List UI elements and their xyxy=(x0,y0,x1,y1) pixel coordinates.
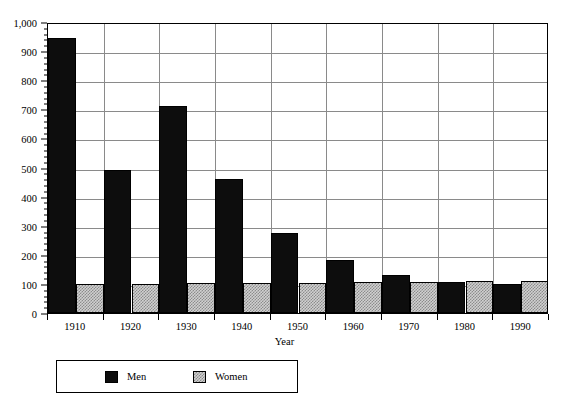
x-tick-mark xyxy=(158,314,159,320)
legend-swatch-women-icon xyxy=(193,371,206,383)
bars-layer xyxy=(48,24,547,313)
x-tick-mark xyxy=(437,314,438,320)
x-tick-label: 1970 xyxy=(398,321,419,332)
bar-men-1950 xyxy=(271,233,299,313)
y-tick-label: 800 xyxy=(21,76,37,87)
bar-men-1930 xyxy=(159,106,187,313)
bar-men-1960 xyxy=(326,260,354,313)
x-tick-label: 1930 xyxy=(176,321,197,332)
bar-women-1980 xyxy=(466,281,494,313)
bar-women-1950 xyxy=(299,283,327,313)
x-tick-mark xyxy=(47,314,48,320)
y-tick-label: 900 xyxy=(21,47,37,58)
x-tick-label: 1960 xyxy=(343,321,364,332)
x-tick-label: 1990 xyxy=(510,321,531,332)
y-tick-label: 400 xyxy=(21,192,37,203)
bar-men-1940 xyxy=(215,179,243,313)
x-tick-label: 1980 xyxy=(454,321,475,332)
legend-item-women[interactable]: Women xyxy=(193,371,247,383)
plot-area xyxy=(47,23,548,314)
x-tick-label: 1950 xyxy=(287,321,308,332)
y-tick-label: 600 xyxy=(21,134,37,145)
y-tick-label: 1,000 xyxy=(13,18,37,29)
bar-women-1910 xyxy=(76,284,104,313)
x-axis-title: Year xyxy=(0,336,569,347)
legend-swatch-men-icon xyxy=(105,371,118,383)
bar-men-1970 xyxy=(382,275,410,313)
legend-label-women: Women xyxy=(215,371,247,382)
x-tick-mark xyxy=(492,314,493,320)
y-tick-label: 500 xyxy=(21,163,37,174)
bar-women-1960 xyxy=(354,282,382,313)
bar-men-1990 xyxy=(493,284,521,313)
bar-men-1910 xyxy=(48,38,76,313)
y-tick-label: 0 xyxy=(32,309,37,320)
y-tick-label: 200 xyxy=(21,250,37,261)
bar-women-1940 xyxy=(243,283,271,313)
x-tick-label: 1910 xyxy=(64,321,85,332)
chart-legend: Men Women xyxy=(56,360,298,393)
chart-figure: 01002003004005006007008009001,000 191019… xyxy=(0,0,569,401)
legend-label-men: Men xyxy=(127,371,146,382)
x-tick-mark xyxy=(270,314,271,320)
x-tick-label: 1940 xyxy=(231,321,252,332)
bar-men-1980 xyxy=(438,282,466,313)
bar-women-1990 xyxy=(521,281,547,313)
bar-women-1930 xyxy=(187,283,215,313)
bar-men-1920 xyxy=(104,170,132,313)
y-tick-label: 300 xyxy=(21,221,37,232)
x-tick-mark xyxy=(548,314,549,320)
y-tick-label: 700 xyxy=(21,105,37,116)
y-tick-label: 100 xyxy=(21,279,37,290)
bar-women-1970 xyxy=(410,282,438,313)
bar-women-1920 xyxy=(132,284,160,313)
legend-item-men[interactable]: Men xyxy=(105,371,146,383)
x-tick-mark xyxy=(325,314,326,320)
x-tick-label: 1920 xyxy=(120,321,141,332)
x-tick-mark xyxy=(103,314,104,320)
x-tick-mark xyxy=(381,314,382,320)
x-tick-mark xyxy=(214,314,215,320)
chart-title xyxy=(0,0,569,2)
